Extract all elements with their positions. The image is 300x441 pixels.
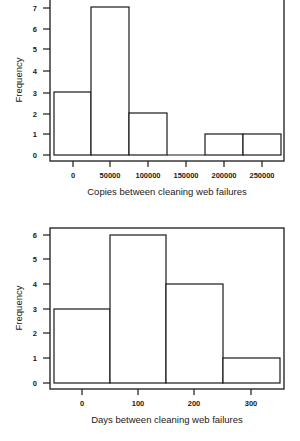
x-tick-label: 50000 [100, 171, 121, 180]
y-axis-title: Frequency [13, 57, 24, 102]
y-tick-label: 3 [33, 305, 37, 314]
x-tick-label: 200 [188, 399, 201, 408]
x-tick-label: 250000 [249, 171, 274, 180]
y-axis: 0 1 2 3 4 5 6 [33, 231, 50, 388]
histogram-copies-plot: 0 1 2 3 4 5 6 7 0 50000 10 [0, 0, 300, 210]
bar [54, 309, 110, 383]
histogram-bars [54, 235, 280, 383]
y-tick-label: 6 [33, 231, 37, 240]
histogram-bars [54, 7, 281, 155]
x-tick-label: 300 [245, 399, 258, 408]
histogram-days-plot: 0 1 2 3 4 5 6 0 100 200 300 Days between… [0, 220, 300, 432]
x-tick-label: 100000 [135, 171, 160, 180]
bar [54, 92, 91, 155]
y-tick-label: 7 [33, 4, 37, 13]
x-tick-label: 0 [80, 399, 84, 408]
x-axis-title: Copies between cleaning web failures [87, 186, 247, 197]
bar [223, 358, 280, 383]
y-tick-label: 3 [33, 89, 37, 98]
y-tick-label: 5 [33, 45, 37, 54]
y-tick-label: 4 [33, 280, 38, 289]
x-axis-title: Days between cleaning web failures [91, 414, 243, 425]
y-tick-label: 5 [33, 255, 37, 264]
y-tick-label: 0 [33, 151, 37, 160]
x-axis: 0 100 200 300 [80, 389, 257, 408]
bar [91, 7, 129, 155]
bar [110, 235, 166, 383]
y-axis-title: Frequency [13, 285, 24, 330]
y-tick-label: 6 [33, 25, 37, 34]
x-tick-label: 150000 [173, 171, 198, 180]
y-axis: 0 1 2 3 4 5 6 7 [33, 4, 50, 160]
bar [243, 134, 281, 155]
x-axis: 0 50000 100000 150000 200000 250000 [71, 161, 275, 180]
histogram-copies: 0 1 2 3 4 5 6 7 0 50000 10 [0, 0, 300, 210]
y-tick-label: 0 [33, 379, 37, 388]
x-tick-label: 100 [132, 399, 145, 408]
y-tick-label: 2 [33, 329, 37, 338]
bar [129, 113, 167, 155]
x-tick-label: 0 [71, 171, 75, 180]
y-tick-label: 4 [33, 67, 38, 76]
y-tick-label: 1 [33, 354, 37, 363]
histogram-days: 0 1 2 3 4 5 6 0 100 200 300 Days between… [0, 220, 300, 432]
y-tick-label: 2 [33, 110, 37, 119]
y-tick-label: 1 [33, 130, 37, 139]
x-tick-label: 200000 [211, 171, 236, 180]
bar [205, 134, 243, 155]
bar [166, 284, 223, 383]
